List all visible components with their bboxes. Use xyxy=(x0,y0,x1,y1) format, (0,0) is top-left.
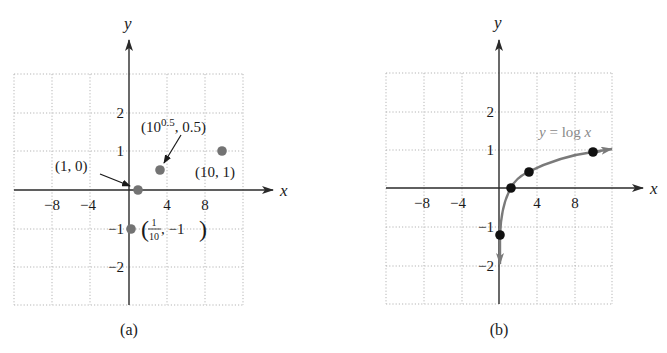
y-axis-label-a: y xyxy=(122,14,132,33)
panel-b: x y −8 −4 4 8 2 1 −1 −2 y = log x (b) xyxy=(386,13,658,339)
caption-a: (a) xyxy=(120,321,138,339)
svg-text:, −1: , −1 xyxy=(161,221,184,237)
svg-text:−4: −4 xyxy=(80,197,96,213)
curve-point-1-0 xyxy=(506,183,516,193)
svg-text:4: 4 xyxy=(533,195,541,211)
label-10-1: (10, 1) xyxy=(195,164,235,181)
log-curve-upper xyxy=(511,151,601,188)
svg-text:1: 1 xyxy=(487,142,495,158)
x-tick-labels-b: −8 −4 4 8 xyxy=(414,195,579,211)
point-tenth-neg1 xyxy=(126,224,136,234)
curve-point-10-1 xyxy=(588,147,598,157)
y-axis-label-b: y xyxy=(492,13,502,32)
svg-text:2: 2 xyxy=(117,105,125,121)
svg-text:8: 8 xyxy=(201,197,209,213)
pointer-arrow-1-0 xyxy=(100,174,130,186)
label-1-0: (1, 0) xyxy=(55,158,88,175)
svg-text:1: 1 xyxy=(117,143,125,159)
point-sqrt10-half xyxy=(155,165,165,175)
svg-text:10: 10 xyxy=(149,231,159,242)
curve-label: y = log x xyxy=(537,124,592,140)
x-tick-labels-a: −8 −4 4 8 xyxy=(44,197,209,213)
svg-text:−2: −2 xyxy=(108,259,124,275)
svg-text:1: 1 xyxy=(152,217,157,228)
point-1-0 xyxy=(133,185,143,195)
x-axis-label-a: x xyxy=(279,181,288,200)
x-axis-label-b: x xyxy=(649,179,658,198)
figure: x y −8 −4 4 8 2 1 −1 −2 (1, 0) (100.5, 0… xyxy=(0,0,667,353)
svg-text:−4: −4 xyxy=(450,195,466,211)
svg-text:−8: −8 xyxy=(414,195,430,211)
svg-text:−1: −1 xyxy=(478,219,494,235)
svg-text:): ) xyxy=(199,216,207,242)
point-10-1 xyxy=(217,146,227,156)
y-tick-labels-b: 2 1 −1 −2 xyxy=(478,104,494,274)
label-sqrt10-half: (100.5, 0.5) xyxy=(141,116,206,136)
svg-text:−1: −1 xyxy=(108,221,124,237)
curve-point-sqrt10-half xyxy=(524,167,534,177)
svg-text:4: 4 xyxy=(163,197,171,213)
svg-text:8: 8 xyxy=(571,195,579,211)
svg-text:2: 2 xyxy=(487,104,495,120)
svg-text:(: ( xyxy=(141,216,149,242)
curve-point-tenth-neg1 xyxy=(495,230,505,240)
svg-text:−8: −8 xyxy=(44,197,60,213)
log-curve-lower xyxy=(500,188,511,264)
panel-a: x y −8 −4 4 8 2 1 −1 −2 (1, 0) (100.5, 0… xyxy=(14,14,288,339)
svg-text:−2: −2 xyxy=(478,258,494,274)
caption-b: (b) xyxy=(490,321,509,339)
